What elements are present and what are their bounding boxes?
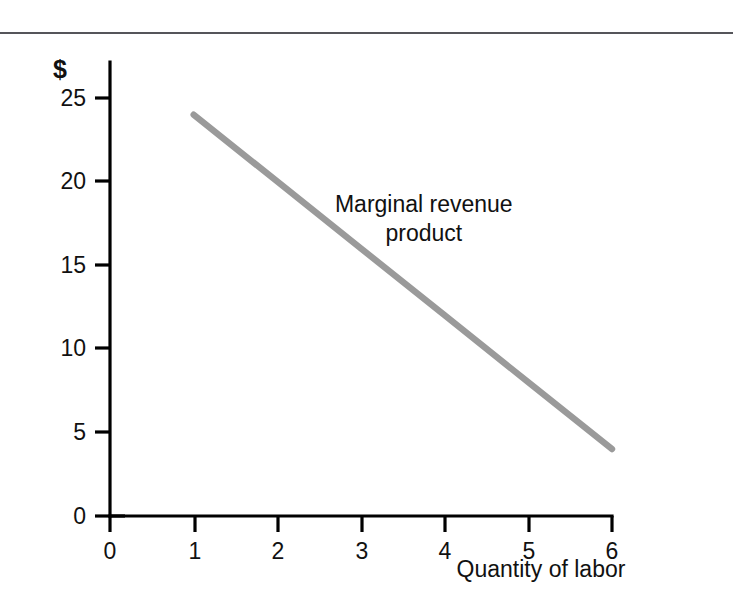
series-annotation-line-2: product [385, 220, 462, 246]
x-tick-label-3: 3 [356, 538, 369, 564]
y-axis-unit-label: $ [53, 55, 67, 83]
x-axis-title: Quantity of labor [457, 556, 626, 582]
x-tick-label-1: 1 [189, 538, 202, 564]
series-annotation-line-1: Marginal revenue [335, 191, 513, 217]
y-tick-label-10: 10 [60, 335, 86, 361]
figure-page: 25 20 15 10 5 0 $ 0 1 2 3 4 5 6 Qua [0, 0, 733, 615]
marginal-revenue-product-chart: 25 20 15 10 5 0 $ 0 1 2 3 4 5 6 Qua [0, 0, 733, 615]
x-tick-label-2: 2 [272, 538, 285, 564]
y-tick-label-15: 15 [60, 252, 86, 278]
x-tick-label-4: 4 [439, 538, 452, 564]
marginal-revenue-product-line [194, 115, 612, 449]
y-tick-label-5: 5 [73, 419, 86, 445]
x-tick-label-0: 0 [104, 538, 117, 564]
y-tick-label-0: 0 [73, 503, 86, 529]
y-tick-label-20: 20 [60, 168, 86, 194]
y-tick-label-25: 25 [60, 85, 86, 111]
chart-figure: 25 20 15 10 5 0 $ 0 1 2 3 4 5 6 Qua [0, 0, 733, 615]
